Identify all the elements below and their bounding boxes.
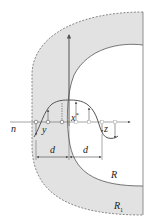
node xyxy=(60,120,64,124)
node xyxy=(46,120,50,124)
label-z: z xyxy=(104,124,108,134)
shaded-region xyxy=(32,12,143,215)
node xyxy=(88,121,91,124)
label-n: n xyxy=(11,124,16,134)
label-d-right: d xyxy=(83,145,88,155)
label-R: R xyxy=(111,170,117,180)
label-R1-sub: 1 xyxy=(120,207,123,213)
label-R1: R1 xyxy=(114,201,123,213)
label-d-left: d xyxy=(50,145,55,155)
node xyxy=(34,120,38,124)
label-x: x* xyxy=(71,112,78,123)
bend-diagram xyxy=(0,0,152,221)
label-x-sup: * xyxy=(75,112,78,118)
node xyxy=(114,121,117,124)
label-y: y xyxy=(42,125,46,135)
